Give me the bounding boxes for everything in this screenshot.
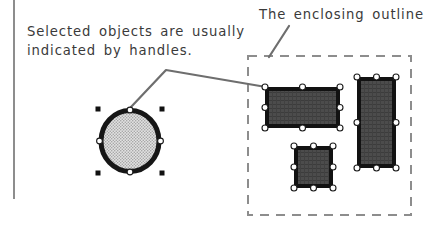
handle-square-top-left[interactable] bbox=[96, 107, 101, 112]
selected-ellipse[interactable] bbox=[101, 111, 159, 172]
handle-circle-right[interactable] bbox=[158, 138, 164, 144]
handle-circle-bottom-right[interactable] bbox=[393, 165, 399, 171]
handle-square-bottom-left[interactable] bbox=[96, 171, 101, 176]
handle-circle-top-left[interactable] bbox=[354, 74, 360, 80]
selected-rect-small-group[interactable] bbox=[291, 143, 336, 191]
handle-circle-bottom-center[interactable] bbox=[311, 185, 317, 191]
handle-circle-top-center[interactable] bbox=[374, 74, 380, 80]
handle-circle-left[interactable] bbox=[97, 138, 103, 144]
handle-circle-bottom-right[interactable] bbox=[337, 125, 343, 131]
handle-circle-bottom-center[interactable] bbox=[300, 125, 306, 131]
handle-circle-bottom-center[interactable] bbox=[374, 165, 380, 171]
handle-circle-middle-right[interactable] bbox=[330, 164, 336, 170]
handle-square-bottom-right[interactable] bbox=[160, 171, 165, 176]
handle-circle-middle-left[interactable] bbox=[291, 164, 297, 170]
figure-canvas: Selected objects are usually indicated b… bbox=[0, 0, 427, 230]
handle-circle-bottom-right[interactable] bbox=[330, 185, 336, 191]
handle-circle-top[interactable] bbox=[127, 107, 133, 113]
handle-circle-top-right[interactable] bbox=[330, 143, 336, 149]
handle-circle-middle-left[interactable] bbox=[354, 120, 360, 126]
handle-circle-bottom-left[interactable] bbox=[354, 165, 360, 171]
handle-circle-bottom-left[interactable] bbox=[291, 185, 297, 191]
handle-circle-middle-left[interactable] bbox=[262, 105, 268, 111]
handle-circle-bottom-left[interactable] bbox=[262, 125, 268, 131]
selected-rect-tall[interactable] bbox=[359, 79, 394, 166]
selected-rect-small[interactable] bbox=[296, 148, 331, 186]
handle-circle-top-right[interactable] bbox=[393, 74, 399, 80]
handle-circle-top-left[interactable] bbox=[262, 84, 268, 90]
handle-circle-bottom[interactable] bbox=[127, 169, 133, 175]
handles-leader-line bbox=[131, 70, 266, 107]
selected-ellipse-group[interactable] bbox=[96, 107, 165, 176]
handle-circle-top-center[interactable] bbox=[300, 84, 306, 90]
selected-rect-wide[interactable] bbox=[267, 89, 338, 126]
handle-square-top-right[interactable] bbox=[160, 107, 165, 112]
outline-leader-line bbox=[269, 26, 289, 57]
handle-circle-top-left[interactable] bbox=[291, 143, 297, 149]
selected-rect-wide-group[interactable] bbox=[262, 84, 343, 131]
handle-circle-middle-right[interactable] bbox=[393, 120, 399, 126]
figure-artwork bbox=[0, 0, 427, 230]
handle-circle-middle-right[interactable] bbox=[337, 105, 343, 111]
handle-circle-top-center[interactable] bbox=[311, 143, 317, 149]
selected-rect-tall-group[interactable] bbox=[354, 74, 399, 171]
handle-circle-top-right[interactable] bbox=[337, 84, 343, 90]
